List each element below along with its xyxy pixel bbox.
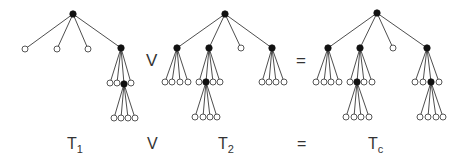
open-node-tc	[358, 114, 364, 120]
tree-edge	[225, 14, 241, 48]
open-node-t1	[54, 46, 60, 52]
open-node-t2	[214, 114, 220, 120]
open-node-tc	[440, 114, 446, 120]
label-equals-main: =	[297, 135, 306, 152]
filled-node-t2	[206, 45, 212, 51]
open-node-tc	[361, 79, 367, 85]
open-node-tc	[417, 114, 423, 120]
open-node-t2	[162, 79, 168, 85]
filled-node-t2	[203, 79, 209, 85]
tree-edge	[225, 14, 272, 48]
label-t2-sub: 2	[228, 143, 234, 155]
filled-node-t1	[70, 11, 76, 17]
filled-node-tc	[357, 45, 363, 51]
tree-edge	[328, 13, 377, 48]
open-node-t2	[259, 79, 265, 85]
open-node-t1	[22, 46, 28, 52]
tree-edge	[431, 82, 436, 117]
filled-node-tc	[374, 10, 380, 16]
tree-edge	[431, 82, 443, 117]
open-node-tc	[366, 114, 372, 120]
label-equals: =	[297, 136, 306, 152]
label-t1-main: T	[67, 135, 77, 152]
filled-node-t2	[269, 45, 275, 51]
open-node-t1	[118, 115, 124, 121]
filled-node-t1	[118, 45, 124, 51]
open-node-tc	[369, 79, 375, 85]
label-t1: T1	[67, 136, 83, 155]
open-node-tc	[412, 79, 418, 85]
open-node-tc	[420, 79, 426, 85]
join-operator-top: V	[146, 52, 157, 69]
tree-edge	[57, 14, 73, 49]
open-node-t2	[207, 114, 213, 120]
open-node-t2	[273, 79, 279, 85]
label-tc-main: T	[368, 135, 378, 152]
open-node-t2	[196, 79, 202, 85]
label-tc-sub: c	[378, 143, 384, 155]
filled-node-tc	[428, 79, 434, 85]
open-node-t1	[107, 80, 113, 86]
filled-node-t2	[174, 45, 180, 51]
label-t2-main: T	[218, 135, 228, 152]
tree-edge	[25, 14, 73, 49]
open-node-t2	[266, 79, 272, 85]
label-t1-sub: 1	[77, 143, 83, 155]
open-node-t2	[210, 79, 216, 85]
open-node-t1	[85, 46, 91, 52]
label-join-main: V	[147, 135, 158, 152]
open-node-t1	[111, 115, 117, 121]
open-node-tc	[425, 114, 431, 120]
equals-operator-top: =	[296, 52, 306, 69]
open-node-tc	[347, 79, 353, 85]
tree-edge	[377, 13, 427, 48]
open-node-tc	[336, 79, 342, 85]
filled-node-t1	[121, 81, 127, 87]
tree-edge	[172, 48, 177, 82]
open-node-tc	[436, 79, 442, 85]
filled-node-tc	[325, 45, 331, 51]
label-t2: T2	[218, 136, 234, 155]
open-node-tc	[313, 79, 319, 85]
tree-edge	[177, 14, 225, 48]
open-node-tc	[328, 79, 334, 85]
open-node-tc	[390, 45, 396, 51]
open-node-tc	[321, 79, 327, 85]
open-node-t1	[125, 115, 131, 121]
open-node-t1	[132, 115, 138, 121]
tree-edges	[25, 13, 443, 118]
open-node-t2	[185, 79, 191, 85]
tree-edge	[360, 13, 377, 48]
filled-node-tc	[354, 79, 360, 85]
open-node-t2	[238, 45, 244, 51]
open-node-t2	[169, 79, 175, 85]
tree-edge	[165, 48, 177, 82]
filled-node-tc	[424, 45, 430, 51]
open-node-tc	[433, 114, 439, 120]
open-node-t1	[128, 80, 134, 86]
open-node-t2	[192, 114, 198, 120]
open-node-t2	[281, 79, 287, 85]
open-node-t2	[177, 79, 183, 85]
open-node-tc	[343, 114, 349, 120]
label-tc: Tc	[368, 136, 383, 155]
tree-nodes	[22, 10, 446, 121]
label-join: V	[147, 136, 158, 152]
tree-edge	[209, 14, 225, 48]
open-node-t2	[217, 79, 223, 85]
open-node-tc	[351, 114, 357, 120]
open-node-t2	[200, 114, 206, 120]
filled-node-t2	[222, 11, 228, 17]
open-node-t1	[114, 80, 120, 86]
